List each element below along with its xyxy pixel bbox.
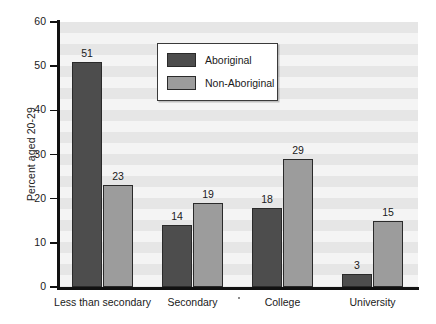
bar-chart: Percent aged 20-29 0102030405060 5123141… — [0, 0, 436, 324]
bar-value-label: 23 — [103, 170, 133, 182]
bar-value-label: 51 — [72, 47, 102, 59]
legend-swatch-icon-aboriginal — [167, 53, 196, 67]
bar — [342, 274, 372, 287]
bar-value-label: 29 — [283, 144, 313, 156]
speck-artifact — [238, 297, 240, 299]
bar-value-label: 15 — [373, 206, 403, 218]
legend-swatch-icon-non-aboriginal — [167, 76, 196, 90]
legend: Aboriginal Non-Aboriginal — [157, 43, 278, 101]
bar-value-label: 14 — [162, 210, 192, 222]
bar-value-label: 19 — [193, 188, 223, 200]
bar — [373, 221, 403, 287]
legend-label-non-aboriginal: Non-Aboriginal — [205, 77, 274, 89]
legend-label-aboriginal: Aboriginal — [205, 54, 252, 66]
y-axis-line — [57, 20, 60, 289]
x-axis-line — [57, 287, 419, 290]
bar — [252, 208, 282, 288]
x-axis-category-label: University — [313, 296, 433, 308]
bar — [193, 203, 223, 287]
bar — [103, 185, 133, 287]
bar — [283, 159, 313, 287]
bar — [72, 62, 102, 287]
bar-value-label: 18 — [252, 193, 282, 205]
bar — [162, 225, 192, 287]
legend-entry-aboriginal: Aboriginal — [167, 52, 252, 68]
legend-entry-non-aboriginal: Non-Aboriginal — [167, 75, 274, 91]
bar-value-label: 3 — [342, 259, 372, 271]
